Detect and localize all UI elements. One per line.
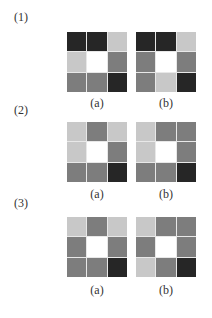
grid-cell-mid — [136, 73, 155, 92]
grid-cell-white — [156, 142, 175, 161]
grid-1a — [67, 32, 127, 92]
panel-label-3b: (b) — [136, 283, 196, 298]
grid-cell-dark — [108, 73, 127, 92]
grid-cell-light — [177, 32, 196, 51]
grid-cell-mid — [67, 258, 86, 277]
grid-cell-mid — [67, 237, 86, 256]
grid-cell-mid — [177, 122, 196, 141]
grid-cell-mid — [177, 52, 196, 71]
grid-2a — [67, 122, 127, 182]
grid-cell-light — [136, 142, 155, 161]
grid-cell-dark — [108, 163, 127, 182]
panel-label-2b: (b) — [136, 187, 196, 202]
grid-cell-mid — [87, 73, 106, 92]
grid-cell-dark — [67, 32, 86, 51]
grid-cell-dark — [136, 32, 155, 51]
grid-cell-dark — [156, 32, 175, 51]
grid-cell-light — [136, 258, 155, 277]
grid-cell-mid — [108, 52, 127, 71]
grid-cell-white — [87, 142, 106, 161]
grid-cell-dark — [87, 32, 106, 51]
row-label-1: (1) — [14, 10, 28, 25]
grid-cell-light — [67, 122, 86, 141]
grid-cell-mid — [177, 237, 196, 256]
grid-cell-mid — [136, 52, 155, 71]
grid-cell-dark — [177, 73, 196, 92]
grid-cell-light — [108, 32, 127, 51]
grid-cell-white — [87, 52, 106, 71]
grid-3a — [67, 217, 127, 277]
grid-cell-light — [67, 142, 86, 161]
grid-cell-mid — [108, 142, 127, 161]
grid-cell-mid — [156, 122, 175, 141]
grid-cell-mid — [87, 122, 106, 141]
grid-cell-light — [136, 122, 155, 141]
grid-cell-white — [156, 237, 175, 256]
grid-1b — [136, 32, 196, 92]
grid-cell-mid — [177, 217, 196, 236]
grid-cell-white — [87, 237, 106, 256]
grid-cell-mid — [156, 258, 175, 277]
panel-label-2a: (a) — [67, 187, 127, 202]
grid-cell-light — [156, 73, 175, 92]
row-label-2: (2) — [14, 103, 28, 118]
grid-cell-mid — [67, 73, 86, 92]
grid-cell-mid — [87, 258, 106, 277]
grid-cell-mid — [136, 163, 155, 182]
grid-cell-light — [67, 217, 86, 236]
grid-cell-mid — [177, 142, 196, 161]
grid-3b — [136, 217, 196, 277]
grid-cell-light — [67, 52, 86, 71]
grid-cell-dark — [177, 163, 196, 182]
grid-cell-mid — [136, 237, 155, 256]
grid-cell-dark — [177, 258, 196, 277]
row-label-3: (3) — [14, 196, 28, 211]
grid-cell-mid — [156, 163, 175, 182]
grid-cell-mid — [156, 217, 175, 236]
grid-2b — [136, 122, 196, 182]
grid-cell-mid — [67, 163, 86, 182]
grid-cell-light — [108, 217, 127, 236]
grid-cell-mid — [108, 237, 127, 256]
grid-cell-light — [108, 122, 127, 141]
grid-cell-white — [156, 52, 175, 71]
grid-cell-dark — [108, 258, 127, 277]
grid-cell-light — [136, 217, 155, 236]
panel-label-1b: (b) — [136, 96, 196, 111]
grid-cell-mid — [87, 163, 106, 182]
panel-label-1a: (a) — [67, 96, 127, 111]
panel-label-3a: (a) — [67, 283, 127, 298]
grid-cell-mid — [87, 217, 106, 236]
